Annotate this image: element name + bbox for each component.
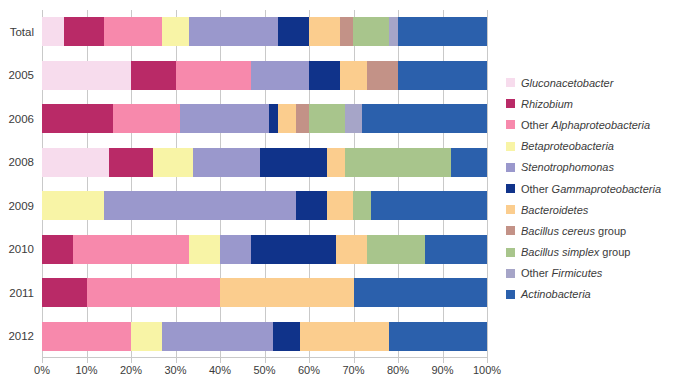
- legend-item-label: Other Gammaproteobacteria: [521, 183, 661, 195]
- bar-segment: [176, 61, 252, 90]
- bar-segment: [131, 61, 176, 90]
- x-axis-label: 10%: [75, 364, 97, 376]
- y-axis-label: 2006: [8, 113, 34, 125]
- bar-segment: [278, 104, 296, 133]
- bar-row: [42, 322, 487, 351]
- bar-segment: [309, 17, 340, 46]
- x-axis-label: 100%: [473, 364, 501, 376]
- legend-item[interactable]: Other Firmicutes: [506, 263, 671, 284]
- legend-item-label: Betaproteobacteria: [521, 140, 614, 152]
- gridline-100: [487, 10, 488, 358]
- bar-row: [42, 278, 487, 307]
- bar-segment: [309, 104, 345, 133]
- legend-item[interactable]: Rhizobium: [506, 93, 671, 114]
- legend-item-label: Gluconacetobacter: [521, 77, 613, 89]
- x-axis-label: 90%: [431, 364, 453, 376]
- bar-segment: [260, 148, 327, 177]
- bar-row: [42, 235, 487, 264]
- x-axis-label: 20%: [120, 364, 142, 376]
- y-axis-label: Total: [10, 26, 34, 38]
- bar-row: [42, 191, 487, 220]
- legend-item[interactable]: Bacillus simplex group: [506, 242, 671, 263]
- bar-segment: [42, 104, 113, 133]
- bar-segment: [273, 322, 300, 351]
- bar-segment: [42, 61, 131, 90]
- x-axis-label: 50%: [253, 364, 275, 376]
- bar-segment: [300, 322, 389, 351]
- bar-segment: [340, 61, 367, 90]
- bar-segment: [131, 322, 162, 351]
- legend-item[interactable]: Actinobacteria: [506, 284, 671, 305]
- bar-segment: [309, 61, 340, 90]
- legend-item[interactable]: Other Gammaproteobacteria: [506, 178, 671, 199]
- legend-item-label: Actinobacteria: [521, 288, 591, 300]
- x-axis-tick: [265, 358, 266, 363]
- bar-segment: [354, 278, 488, 307]
- bar-row: [42, 148, 487, 177]
- bar-segment: [398, 17, 487, 46]
- legend-swatch-bacteroidetes: [506, 205, 515, 214]
- bar-segment: [367, 235, 425, 264]
- legend-item[interactable]: Bacteroidetes: [506, 199, 671, 220]
- bar-segment: [353, 17, 389, 46]
- plot-area: [42, 10, 487, 358]
- legend-item-label: Other Firmicutes: [521, 267, 602, 279]
- legend-item[interactable]: Stenotrophomonas: [506, 157, 671, 178]
- y-axis-label: 2008: [8, 156, 34, 168]
- bar-segment: [398, 61, 487, 90]
- bar-segment: [353, 191, 371, 220]
- bar-row: [42, 104, 487, 133]
- bar-segment: [42, 322, 131, 351]
- bar-segment: [278, 17, 309, 46]
- x-axis-tick: [487, 358, 488, 363]
- bar-segment: [109, 148, 154, 177]
- x-axis-tick: [87, 358, 88, 363]
- bar-segment: [296, 191, 327, 220]
- legend-swatch-other-alphaproteobacteria: [506, 120, 515, 129]
- legend-swatch-rhizobium: [506, 99, 515, 108]
- legend-swatch-actinobacteria: [506, 290, 515, 299]
- bar-segment: [389, 17, 398, 46]
- bar-segment: [451, 148, 487, 177]
- legend-swatch-gluconacetobacter: [506, 78, 515, 87]
- bar-segment: [42, 235, 73, 264]
- bar-segment: [220, 235, 251, 264]
- bar-segment: [42, 191, 104, 220]
- bar-segment: [104, 191, 295, 220]
- x-axis-tick: [398, 358, 399, 363]
- bar-segment: [162, 322, 273, 351]
- x-axis-label: 70%: [342, 364, 364, 376]
- legend-item-label: Bacteroidetes: [521, 204, 588, 216]
- bar-segment: [251, 61, 309, 90]
- legend-item-label: Bacillus cereus group: [521, 225, 626, 237]
- legend-item-label: Stenotrophomonas: [521, 161, 614, 173]
- x-axis-tick: [443, 358, 444, 363]
- bar-segment: [87, 278, 221, 307]
- legend-item-label: Bacillus simplex group: [521, 246, 630, 258]
- y-axis-label: 2011: [9, 287, 34, 299]
- x-axis-label: 40%: [209, 364, 231, 376]
- legend-swatch-betaproteobacteria: [506, 142, 515, 151]
- legend-item[interactable]: Betaproteobacteria: [506, 136, 671, 157]
- x-axis-tick: [42, 358, 43, 363]
- bar-segment: [367, 61, 398, 90]
- legend-item[interactable]: Other Alphaproteobacteria: [506, 114, 671, 135]
- x-axis-tick: [131, 358, 132, 363]
- bar-segment: [345, 104, 363, 133]
- bar-segment: [345, 148, 452, 177]
- bar-segment: [189, 17, 278, 46]
- bar-segment: [327, 148, 345, 177]
- bar-segment: [371, 191, 487, 220]
- bar-segment: [269, 104, 278, 133]
- legend-swatch-bacillus-cereus-group: [506, 226, 515, 235]
- y-axis-label: 2012: [8, 330, 34, 342]
- bar-segment: [42, 148, 109, 177]
- bar-row: [42, 61, 487, 90]
- bar-segment: [189, 235, 220, 264]
- legend-swatch-bacillus-simplex-group: [506, 248, 515, 257]
- legend-item[interactable]: Bacillus cereus group: [506, 220, 671, 241]
- bar-segment: [153, 148, 193, 177]
- legend-swatch-other-gammaproteobacteria: [506, 184, 515, 193]
- bars-layer: [42, 10, 487, 358]
- legend-item[interactable]: Gluconacetobacter: [506, 72, 671, 93]
